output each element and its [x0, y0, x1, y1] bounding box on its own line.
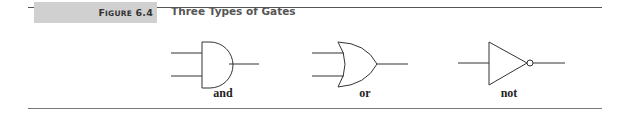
or-gate-label: or [359, 86, 370, 101]
not-gate-label: not [501, 86, 518, 101]
or-gate-icon [312, 42, 408, 87]
and-gate-label: and [213, 86, 232, 101]
not-gate-icon [458, 42, 565, 85]
bottom-rule [28, 108, 602, 109]
and-gate-icon [171, 42, 259, 88]
gates-diagram [0, 0, 628, 118]
